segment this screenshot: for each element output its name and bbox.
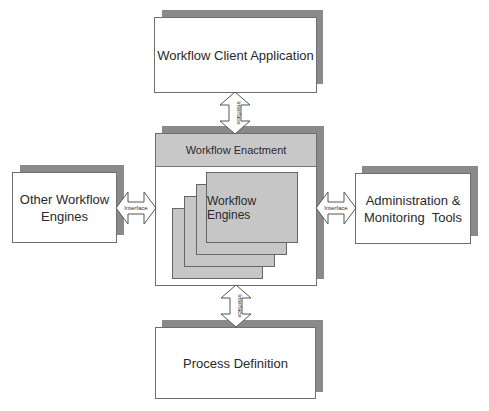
process-definition-box[interactable]: Process Definition <box>155 327 316 399</box>
interface-arrow-bottom: Interface <box>220 285 252 327</box>
interface-arrow-right: Interface <box>316 191 356 225</box>
other-engines-label-line2: Engines <box>41 208 88 225</box>
admin-label-line2: Monitoring Tools <box>364 209 462 226</box>
admin-label-line1: Administration & <box>366 192 461 209</box>
workflow-client-application-box[interactable]: Workflow Client Application <box>154 17 317 93</box>
process-definition-label: Process Definition <box>183 355 288 372</box>
workflow-engines-label: Workflow Engines <box>207 194 297 222</box>
administration-monitoring-tools-box[interactable]: Administration & Monitoring Tools <box>355 173 471 244</box>
interface-arrow-left: Interface <box>116 191 156 225</box>
workflow-enactment-header: Workflow Enactment <box>156 134 316 167</box>
interface-label-left: Interface <box>124 205 148 211</box>
other-engines-label-line1: Other Workflow <box>20 191 109 208</box>
workflow-client-application-label: Workflow Client Application <box>157 47 314 64</box>
interface-label-top: Interface <box>236 101 242 125</box>
workflow-engines-box[interactable]: Workflow Engines <box>206 172 298 243</box>
interface-arrow-top: Interface <box>219 92 251 134</box>
workflow-enactment-label: Workflow Enactment <box>186 142 287 159</box>
other-workflow-engines-box[interactable]: Other Workflow Engines <box>12 172 117 243</box>
interface-label-right: Interface <box>324 205 348 211</box>
interface-label-bottom: Interface <box>237 294 243 318</box>
